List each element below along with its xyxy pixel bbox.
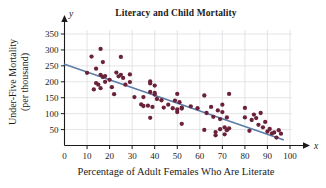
- scatter-point: [94, 67, 98, 71]
- scatter-point: [254, 116, 258, 120]
- scatter-point: [227, 92, 231, 96]
- scatter-point: [195, 106, 199, 110]
- scatter-point: [153, 92, 157, 96]
- scatter-point: [225, 115, 229, 119]
- chart-figure: Literacy and Child Mortality Under-Five …: [0, 0, 326, 188]
- x-tick-label: 0: [62, 151, 67, 161]
- scatter-point: [272, 130, 276, 134]
- scatter-point: [121, 76, 125, 80]
- scatter-point: [180, 122, 184, 126]
- x-tick-label: 30: [128, 151, 138, 161]
- scatter-point: [175, 110, 179, 114]
- scatter-point: [173, 98, 177, 102]
- scatter-point: [250, 118, 254, 122]
- scatter-point: [153, 83, 157, 87]
- scatter-point: [218, 127, 222, 131]
- scatter-point: [98, 47, 102, 51]
- x-tick-label: 60: [195, 151, 205, 161]
- scatter-point: [150, 105, 154, 109]
- scatter-point: [209, 105, 213, 109]
- y-axis-variable-symbol: y: [68, 9, 74, 19]
- scatter-point: [220, 110, 224, 114]
- scatter-point: [141, 104, 145, 108]
- x-tick-label: 50: [173, 151, 183, 161]
- scatter-point: [268, 127, 272, 131]
- scatter-point: [162, 105, 166, 109]
- scatter-point: [141, 95, 145, 99]
- scatter-point: [101, 60, 105, 64]
- scatter-point: [98, 86, 102, 90]
- scatter-point: [211, 115, 215, 119]
- x-tick-label: 40: [150, 151, 160, 161]
- scatter-point: [155, 97, 159, 101]
- scatter-point: [189, 104, 193, 108]
- y-tick-label: 350: [45, 29, 59, 39]
- scatter-point: [243, 106, 247, 110]
- scatter-points: [85, 47, 283, 140]
- x-axis-arrow: [303, 142, 310, 148]
- x-tick-label: 90: [263, 151, 273, 161]
- scatter-point: [177, 100, 181, 104]
- scatter-point: [213, 133, 217, 137]
- scatter-point: [261, 125, 265, 129]
- scatter-point: [112, 92, 116, 96]
- x-tick-label: 100: [283, 151, 297, 161]
- scatter-point: [132, 95, 136, 99]
- scatter-point: [123, 83, 127, 87]
- scatter-point: [202, 128, 206, 132]
- scatter-point: [89, 54, 93, 58]
- scatter-point: [263, 120, 267, 124]
- scatter-point: [259, 111, 263, 115]
- y-axis-arrow: [61, 15, 67, 22]
- scatter-point: [175, 92, 179, 96]
- scatter-point: [110, 85, 114, 89]
- scatter-point: [227, 126, 231, 130]
- x-axis-variable-symbol: x: [313, 141, 319, 151]
- x-axis-title: Percentage of Adult Females Who Are Lite…: [0, 166, 326, 177]
- x-tick-label: 70: [218, 151, 228, 161]
- scatter-point: [128, 72, 132, 76]
- scatter-point: [274, 135, 278, 139]
- scatter-point: [103, 80, 107, 84]
- scatter-point: [204, 111, 208, 115]
- y-tick-label: 300: [45, 45, 59, 55]
- scatter-point: [166, 103, 170, 107]
- scatter-point: [107, 78, 111, 82]
- scatter-point: [92, 87, 96, 91]
- scatter-point: [279, 132, 283, 136]
- scatter-point: [146, 104, 150, 108]
- y-tick-label: 150: [45, 93, 59, 103]
- scatter-point: [103, 74, 107, 78]
- scatter-point: [148, 81, 152, 85]
- y-tick-label: 50: [50, 125, 60, 135]
- vertical-gridlines: [87, 30, 290, 145]
- scatter-point: [216, 108, 220, 112]
- scatter-point: [202, 93, 206, 97]
- scatter-point: [220, 103, 224, 107]
- x-tick-label: 10: [83, 151, 93, 161]
- scatter-point: [114, 70, 118, 74]
- scatter-point: [148, 90, 152, 94]
- scatter-point: [222, 132, 226, 136]
- y-tick-label: 200: [45, 77, 59, 87]
- scatter-point: [180, 106, 184, 110]
- x-tick-label: 20: [105, 151, 115, 161]
- y-tick-label: 100: [45, 109, 59, 119]
- scatter-point: [85, 71, 89, 75]
- scatter-point: [256, 123, 260, 127]
- scatter-point: [243, 115, 247, 119]
- scatter-point: [171, 106, 175, 110]
- scatter-point: [159, 98, 163, 102]
- scatter-point: [148, 116, 152, 120]
- x-axis-tick-labels: 0102030405060708090100: [62, 151, 297, 161]
- scatter-point: [218, 117, 222, 121]
- y-tick-label: 250: [45, 61, 59, 71]
- y-axis-tick-labels: 50100150200250300350: [45, 29, 59, 135]
- scatter-point: [119, 55, 123, 59]
- scatter-plot-canvas: 0102030405060708090100 50100150200250300…: [0, 0, 326, 188]
- scatter-point: [128, 80, 132, 84]
- x-tick-label: 80: [240, 151, 250, 161]
- scatter-point: [247, 129, 251, 133]
